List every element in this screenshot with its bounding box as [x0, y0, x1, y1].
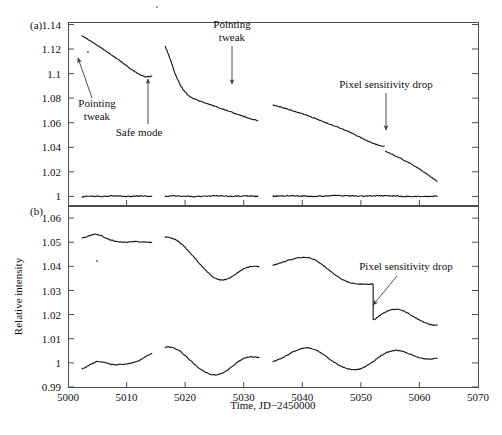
- annotation-safe-mode: Safe mode: [116, 126, 163, 138]
- panel-a-ytick-label: 1.1: [47, 68, 61, 80]
- scan-speck: [96, 260, 98, 262]
- xtick-label: 5070: [467, 391, 490, 403]
- scan-speck: [156, 6, 158, 8]
- panel-a-ytick-label: 1.06: [42, 117, 62, 129]
- panel-a-ytick-label: 1: [56, 190, 62, 202]
- annotation-pointing-tweak-1: Pointing: [78, 97, 116, 109]
- figure-container: 11.021.041.061.081.11.121.140.9911.011.0…: [0, 0, 502, 435]
- annotation-pixel-drop-a: Pixel sensitivity drop: [339, 78, 433, 90]
- panel-a-ytick-label: 1.14: [42, 19, 62, 31]
- panel-b-ytick-label: 1.05: [42, 236, 62, 248]
- xtick-label: 5020: [174, 391, 197, 403]
- annotation-pointing-tweak-2b: tweak: [219, 31, 246, 43]
- panel-a-ytick-label: 1.12: [42, 43, 61, 55]
- xtick-label: 5050: [350, 391, 373, 403]
- xtick-label: 5000: [57, 391, 80, 403]
- panel-a-label: (a): [30, 19, 43, 32]
- panel-b-ytick-label: 1.04: [42, 260, 62, 272]
- panel-b-ytick-label: 1.02: [42, 309, 61, 321]
- panel-a-ytick-label: 1.04: [42, 141, 62, 153]
- panel-a-ytick-label: 1.08: [42, 92, 62, 104]
- panel-b-ytick-label: 1.01: [42, 333, 61, 345]
- annotation-pointing-tweak-1b: tweak: [84, 110, 111, 122]
- scan-speck: [87, 51, 89, 53]
- y-axis-label: Relative intensity: [12, 257, 24, 335]
- xtick-label: 5060: [408, 391, 431, 403]
- xtick-label: 5010: [116, 391, 139, 403]
- panel-a-ytick-label: 1.02: [42, 166, 61, 178]
- panel-b-ytick-label: 1.06: [42, 212, 62, 224]
- panel-b-ytick-label: 1.03: [42, 285, 62, 297]
- panel-b-label: (b): [30, 205, 43, 218]
- panel-b-ytick-label: 1: [56, 357, 62, 369]
- annotation-pixel-drop-b: Pixel sensitivity drop: [359, 260, 453, 272]
- x-axis-label: Time, JD−2450000: [230, 399, 316, 411]
- annotation-pointing-tweak-2: Pointing: [213, 18, 251, 30]
